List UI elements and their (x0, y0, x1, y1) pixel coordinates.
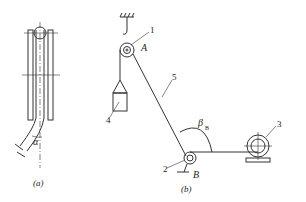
beta-sub: B (205, 125, 209, 131)
panel-b: 1 2 3 4 5 A B β B (b) (106, 13, 282, 194)
pulley-A (120, 43, 134, 57)
part-5: 5 (172, 72, 177, 82)
part-3: 3 (277, 119, 282, 129)
label-A: A (140, 42, 148, 53)
caption-a: (a) (33, 178, 44, 188)
beta-arc (180, 128, 212, 152)
alpha-label: α (33, 136, 39, 147)
label-B: B (193, 169, 199, 180)
diagram: α (a) (0, 0, 306, 202)
part-4: 4 (106, 115, 111, 125)
panel-a: α (a) (15, 22, 60, 188)
part-2: 2 (163, 164, 168, 174)
caption-b: (b) (181, 184, 192, 194)
pulley-B (184, 152, 196, 164)
weight-top (113, 80, 127, 93)
beta-label: β (197, 117, 203, 128)
part-1: 1 (150, 25, 155, 35)
